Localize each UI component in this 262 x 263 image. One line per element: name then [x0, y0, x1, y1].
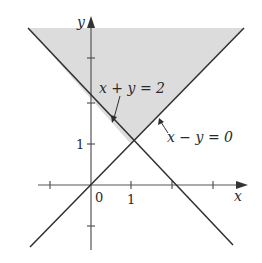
y-axis-arrow-icon — [87, 16, 95, 28]
label-x-minus-y-equals-0: x − y = 0 — [167, 129, 233, 145]
label-x-plus-y-equals-2: x + y = 2 — [99, 80, 165, 96]
origin-label: 0 — [95, 190, 103, 205]
inequality-diagram: y x 0 1 1 x + y = 2 x − y = 0 — [0, 0, 262, 263]
x-tick-label-1: 1 — [127, 192, 135, 207]
y-tick-label-1: 1 — [76, 137, 84, 152]
y-axis-label: y — [76, 14, 86, 30]
x-axis-label: x — [234, 188, 242, 204]
